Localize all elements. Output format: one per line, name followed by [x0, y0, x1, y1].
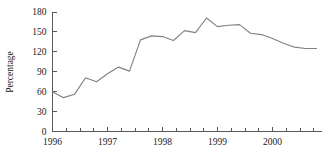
y-tick-label: 30	[37, 107, 47, 117]
x-tick-label: 1997	[98, 137, 117, 147]
y-axis-group: 0306090120150180	[32, 7, 56, 137]
chart-canvas: 0306090120150180 19961997199819992000 Pe…	[0, 0, 329, 165]
x-tick-labels: 19961997199819992000	[43, 137, 282, 147]
x-tick-label: 2000	[263, 137, 282, 147]
line-chart: 0306090120150180 19961997199819992000 Pe…	[0, 0, 329, 165]
y-tick-label: 120	[32, 47, 47, 57]
x-tick-label: 1998	[153, 137, 172, 147]
x-tick-label: 1999	[208, 137, 227, 147]
percentage-series-line	[53, 18, 317, 98]
y-tick-label: 0	[42, 127, 47, 137]
x-axis-group: 19961997199819992000	[43, 127, 322, 147]
y-axis-title: Percentage	[5, 51, 15, 93]
x-minor-tick-marks	[66, 128, 314, 132]
y-tick-marks	[53, 12, 57, 132]
y-tick-label: 150	[32, 27, 47, 37]
y-tick-labels: 0306090120150180	[32, 7, 47, 137]
y-tick-label: 60	[37, 87, 47, 97]
y-tick-label: 180	[32, 7, 47, 17]
x-major-tick-marks	[53, 127, 273, 132]
y-tick-label: 90	[37, 67, 47, 77]
x-tick-label: 1996	[43, 137, 62, 147]
